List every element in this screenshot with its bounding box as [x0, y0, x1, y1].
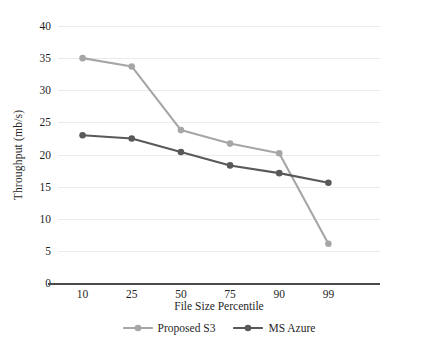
data-point-marker	[79, 55, 86, 62]
data-point-marker	[276, 150, 283, 157]
x-tick-label: 10	[77, 288, 89, 300]
series-line	[83, 135, 329, 183]
y-tick-label: 15	[40, 181, 52, 193]
y-tick-label: 35	[40, 52, 52, 64]
y-tick-label: 40	[40, 20, 52, 32]
y-tick-label: 10	[40, 213, 52, 225]
y-tick-label: 5	[45, 245, 51, 257]
data-point-marker	[178, 149, 185, 156]
x-axis-title: File Size Percentile	[58, 300, 380, 312]
data-point-marker	[128, 63, 135, 70]
x-tick-label: 75	[224, 288, 236, 300]
data-point-marker	[227, 162, 234, 169]
data-point-marker	[128, 135, 135, 142]
data-point-marker	[325, 179, 332, 186]
data-point-marker	[227, 140, 234, 147]
y-tick-label: 20	[40, 149, 52, 161]
x-tick-label: 50	[175, 288, 187, 300]
legend-item-ms-azure[interactable]: MS Azure	[233, 322, 315, 334]
series-proposed-s3	[79, 55, 331, 247]
chart-legend: Proposed S3MS Azure	[0, 322, 438, 334]
legend-item-proposed-s3[interactable]: Proposed S3	[123, 322, 216, 334]
legend-marker-icon	[233, 322, 263, 334]
x-tick-label: 90	[273, 288, 285, 300]
legend-label: Proposed S3	[158, 322, 216, 334]
y-axis-title: Throughput (mb/s)	[12, 40, 30, 270]
y-tick-label: 25	[40, 116, 52, 128]
legend-marker-icon	[123, 322, 153, 334]
y-tick-label: 30	[40, 84, 52, 96]
series-layer	[58, 26, 380, 283]
x-axis-line	[48, 283, 380, 285]
x-tick-label: 99	[323, 288, 335, 300]
data-point-marker	[276, 170, 283, 177]
legend-label: MS Azure	[268, 322, 315, 334]
throughput-line-chart: Throughput (mb/s) 0510152025303540 10255…	[0, 0, 438, 350]
plot-area: 0510152025303540 102550759099	[58, 26, 380, 283]
data-point-marker	[79, 132, 86, 139]
data-point-marker	[325, 241, 332, 248]
x-tick-label: 25	[126, 288, 138, 300]
series-line	[83, 58, 329, 244]
data-point-marker	[178, 127, 185, 134]
